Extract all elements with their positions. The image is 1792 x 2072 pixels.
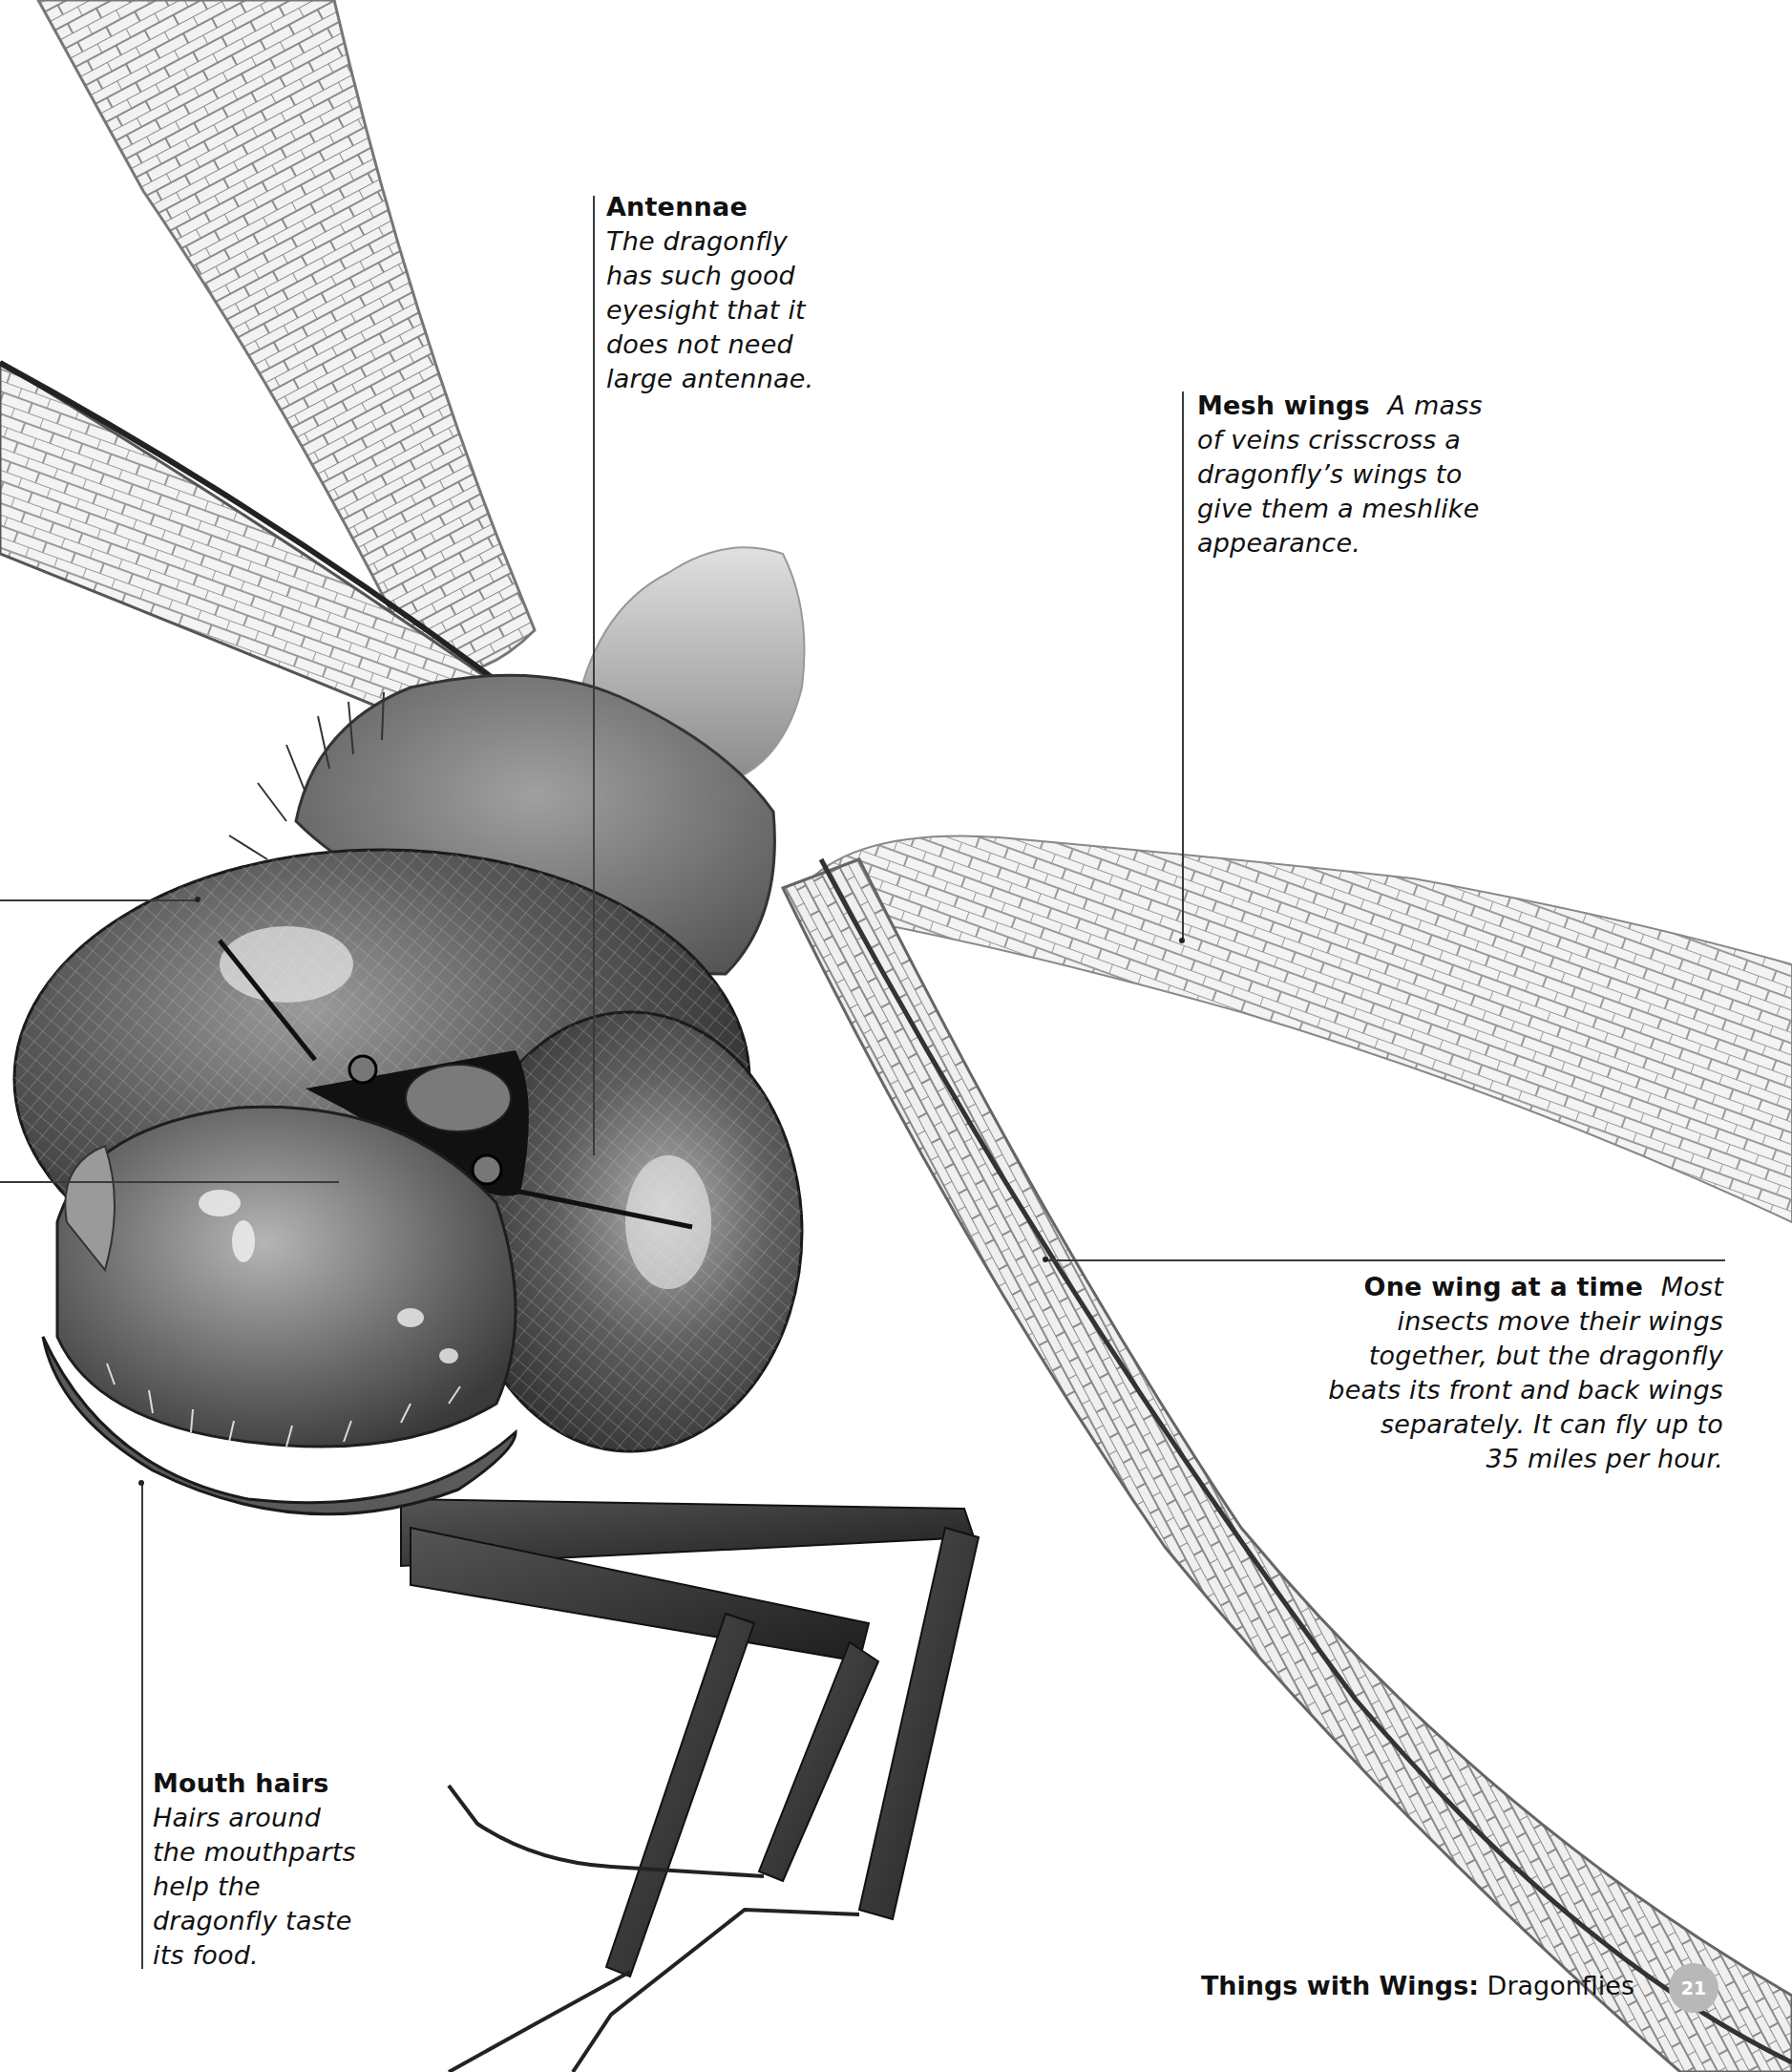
footer-topic: Dragonflies: [1487, 1971, 1634, 2000]
callout-mouth-hairs-line: dragonfly taste: [153, 1904, 356, 1938]
callout-one-wing-title: One wing at a time: [1364, 1272, 1643, 1301]
callout-antennae-line: The dragonfly: [606, 224, 813, 259]
callout-antennae-line: has such good: [606, 259, 813, 293]
callout-one-wing-at-a-time: One wing at a time Most insects move the…: [1328, 1270, 1723, 1476]
left-edge-leader-line-upper: [0, 899, 197, 901]
callout-mesh-wings: Mesh wings A mass of veins crisscross a …: [1197, 389, 1483, 560]
left-edge-leader-line-lower: [0, 1181, 339, 1183]
callout-mesh-wings-lead: A mass: [1388, 391, 1483, 420]
antennae-leader-line: [593, 196, 595, 1155]
callout-antennae-line: eyesight that it: [606, 293, 813, 328]
callout-one-wing-line: beats its front and back wings: [1328, 1373, 1723, 1407]
mesh-wings-leader-dot: [1179, 938, 1185, 943]
one-wing-leader-line: [1045, 1259, 1725, 1261]
callout-mesh-wings-line: appearance.: [1197, 526, 1483, 560]
callout-one-wing-line: separately. It can fly up to: [1328, 1407, 1723, 1442]
dragonfly-illustration: [0, 0, 1792, 2072]
page-number: 21: [1681, 1977, 1706, 1998]
callout-mesh-wings-line: of veins crisscross a: [1197, 423, 1483, 457]
callout-mouth-hairs-title: Mouth hairs: [153, 1766, 356, 1801]
callout-one-wing-lead: Most: [1661, 1272, 1723, 1301]
callout-mesh-wings-line: give them a meshlike: [1197, 492, 1483, 526]
callout-one-wing-line: 35 miles per hour.: [1328, 1442, 1723, 1476]
mesh-wings-leader-line: [1182, 391, 1184, 941]
callout-mouth-hairs-line: the mouthparts: [153, 1835, 356, 1870]
footer-series-title: Things with Wings:: [1201, 1971, 1479, 2000]
callout-antennae: Antennae The dragonfly has such good eye…: [606, 190, 813, 396]
callout-one-wing-line: together, but the dragonfly: [1328, 1339, 1723, 1373]
callout-antennae-line: large antennae.: [606, 362, 813, 396]
page-number-badge: 21: [1669, 1963, 1718, 2013]
mouth-hairs-leader-dot: [138, 1480, 144, 1486]
callout-mesh-wings-title: Mesh wings: [1197, 391, 1370, 420]
callout-antennae-title: Antennae: [606, 190, 813, 224]
callout-mesh-wings-line: dragonfly’s wings to: [1197, 457, 1483, 492]
book-page: Antennae The dragonfly has such good eye…: [0, 0, 1792, 2072]
callout-mouth-hairs-line: Hairs around: [153, 1801, 356, 1835]
callout-mouth-hairs: Mouth hairs Hairs around the mouthparts …: [153, 1766, 356, 1973]
callout-mouth-hairs-line: its food.: [153, 1938, 356, 1973]
one-wing-leader-dot: [1043, 1257, 1048, 1262]
callout-mouth-hairs-line: help the: [153, 1870, 356, 1904]
callout-antennae-line: does not need: [606, 328, 813, 362]
callout-one-wing-line: insects move their wings: [1328, 1304, 1723, 1339]
mouth-hairs-leader-line: [141, 1482, 143, 1969]
running-footer: Things with Wings: Dragonflies: [1201, 1969, 1634, 2003]
left-edge-leader-dot-upper: [195, 897, 200, 902]
